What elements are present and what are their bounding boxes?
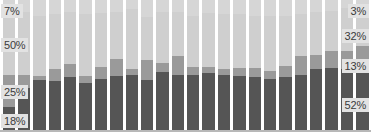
bar-segment-segment-1-top [325,0,337,10]
bar-segment-segment-4-bottom [156,72,168,131]
bar-segment-segment-2 [325,11,337,52]
bar-column [79,0,91,131]
bar-segment-segment-4-bottom [295,75,307,131]
bar-segment-segment-4-bottom [33,80,45,131]
bar-segment-segment-1-top [95,0,107,13]
bar-column [187,0,199,131]
data-label-first-bar-upper-mid: 50% [1,38,28,52]
bar-segment-segment-4-bottom [233,76,245,131]
bar-column [33,0,45,131]
bar-column [172,0,184,131]
bar-segment-segment-3 [172,56,184,74]
bar-column [110,0,122,131]
bar-segment-segment-4-bottom [110,76,122,131]
bar-column [325,0,337,131]
bar-segment-segment-1-top [310,0,322,12]
bar-segment-segment-1-top [233,0,245,14]
bar-segment-segment-4-bottom [202,73,214,131]
bar-segment-segment-1-top [202,0,214,13]
bar-segment-segment-3 [310,55,322,69]
data-label-last-bar-bottom: 52% [342,98,369,112]
bar-segment-segment-3 [249,68,261,77]
bar-column [218,0,230,131]
bar-segment-segment-2 [310,12,322,55]
bar-segment-segment-4-bottom [172,75,184,131]
bar-segment-segment-3 [279,66,291,78]
stacked-bar-chart: 7% 50% 25% 18% 3% 32% 13% 52% [0,0,371,138]
bar-segment-segment-1-top [49,0,61,14]
bar-segment-segment-3 [49,69,61,81]
bar-segment-segment-1-top [279,0,291,16]
bar-segment-segment-3 [295,56,307,74]
bar-segment-segment-1-top [172,0,184,12]
bar-segment-segment-2 [249,16,261,68]
bar-segment-segment-2 [279,16,291,66]
bar-segment-segment-2 [64,12,76,64]
data-label-first-bar-bottom: 18% [1,114,28,128]
bar-segment-segment-1-top [64,0,76,12]
bar-segment-segment-2 [156,12,168,63]
bar-segment-segment-4-bottom [218,75,230,131]
bar-segment-segment-1-top [33,0,45,16]
bar-segment-segment-1-top [141,0,153,17]
bar-segment-segment-2 [33,16,45,76]
bar-segment-segment-3 [64,64,76,77]
data-label-first-bar-top: 7% [1,4,23,18]
bar-segment-segment-3 [325,51,337,68]
bar-segment-segment-3 [156,63,168,72]
bar-column [249,0,261,131]
bar-segment-segment-3 [95,67,107,79]
bar-segment-segment-1-top [295,0,307,14]
bar-segment-segment-3 [264,71,276,79]
data-label-last-bar-lower-mid: 13% [342,59,369,73]
bar-segment-segment-1-top [126,0,138,9]
bar-column [141,0,153,131]
bar-segment-segment-4-bottom [141,80,153,131]
bar-segment-segment-2 [110,12,122,59]
bar-column [49,0,61,131]
bar-segment-segment-4-bottom [325,68,337,131]
bar-column [3,0,15,131]
bar-segment-segment-2 [233,14,245,68]
bar-segment-segment-4-bottom [64,77,76,131]
bar-segment-segment-3 [187,67,199,75]
bar-segment-segment-1-top [79,0,91,14]
x-axis-line [0,130,371,132]
bar-column [310,0,322,131]
bar-segment-segment-3 [233,68,245,76]
bar-segment-segment-4-bottom [126,75,138,131]
bar-segment-segment-1-top [264,0,276,16]
bar-segment-segment-2 [264,16,276,71]
bar-column [126,0,138,131]
bar-segment-segment-1-top [110,0,122,12]
bar-segment-segment-2 [126,9,138,69]
bar-segment-segment-2 [79,14,91,76]
bar-segment-segment-4-bottom [187,75,199,131]
bar-segment-segment-4-bottom [49,81,61,131]
bar-segment-segment-4-bottom [356,63,368,131]
bar-column [156,0,168,131]
bar-segment-segment-2 [95,13,107,67]
data-label-first-bar-lower-mid: 25% [1,85,28,99]
bar-segment-segment-1-top [156,0,168,12]
bar-column [18,0,30,131]
bar-column [233,0,245,131]
chart-plot-area [0,0,371,131]
bar-column [95,0,107,131]
data-label-last-bar-upper-mid: 32% [342,29,369,43]
data-label-last-bar-top: 3% [348,4,370,18]
bar-segment-segment-4-bottom [279,77,291,131]
bar-segment-segment-2 [218,14,230,69]
bar-column [202,0,214,131]
bar-segment-segment-3 [110,59,122,76]
bar-segment-segment-2 [141,17,153,60]
bar-segment-segment-2 [202,13,214,67]
bar-column [264,0,276,131]
bar-column [64,0,76,131]
bar-segment-segment-4-bottom [310,69,322,131]
bar-segment-segment-4-bottom [249,77,261,131]
bar-column [295,0,307,131]
bar-segment-segment-1-top [249,0,261,16]
bar-segment-segment-2 [187,16,199,67]
bar-segment-segment-2 [295,14,307,56]
